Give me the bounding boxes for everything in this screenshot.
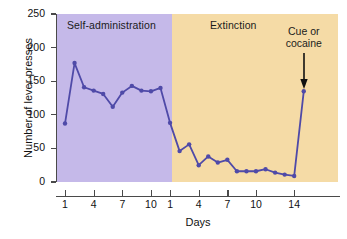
series-polyline [65, 63, 304, 176]
x-axis-tick [294, 190, 295, 196]
y-axis-tick [51, 114, 56, 115]
data-point [91, 88, 95, 92]
data-point [177, 149, 181, 153]
data-point [263, 167, 267, 171]
data-point [197, 163, 201, 167]
x-axis-tick [170, 190, 171, 196]
x-axis-tick-label: 1 [159, 199, 181, 210]
data-point [63, 121, 67, 125]
data-point [302, 89, 306, 93]
data-point [111, 105, 115, 109]
data-point [139, 88, 143, 92]
x-axis-line [56, 196, 340, 197]
data-point [101, 92, 105, 96]
data-series-line [57, 14, 338, 182]
data-point [282, 172, 286, 176]
x-axis-tick-label: 7 [216, 199, 238, 210]
data-point [244, 169, 248, 173]
x-axis-tick-label: 14 [283, 199, 305, 210]
data-point [254, 169, 258, 173]
data-point [216, 160, 220, 164]
y-axis-tick [51, 13, 56, 14]
y-axis-tick [51, 148, 56, 149]
data-point [149, 89, 153, 93]
x-axis-title: Days [56, 216, 340, 228]
data-point [82, 85, 86, 89]
x-axis-tick-label: 4 [83, 199, 105, 210]
y-axis-line [56, 14, 57, 182]
x-axis-tick-label: 7 [111, 199, 133, 210]
x-axis-tick [199, 190, 200, 196]
data-point [292, 174, 296, 178]
data-point [168, 121, 172, 125]
y-axis-title: Number of lever presses [22, 14, 34, 182]
plot-area: Self-administration Extinction Cue or co… [57, 14, 338, 182]
x-axis-tick-label: 1 [54, 199, 76, 210]
x-axis-tick-label: 10 [245, 199, 267, 210]
data-point [130, 84, 134, 88]
x-axis-tick [256, 190, 257, 196]
y-axis-tick [51, 47, 56, 48]
y-axis-tick [51, 181, 56, 182]
data-point [273, 170, 277, 174]
data-point [158, 86, 162, 90]
x-axis-tick [151, 190, 152, 196]
data-point [120, 90, 124, 94]
data-point [206, 154, 210, 158]
data-point [187, 142, 191, 146]
x-axis-tick [227, 190, 228, 196]
data-point [72, 61, 76, 65]
y-axis-tick [51, 81, 56, 82]
x-axis-tick-label: 4 [188, 199, 210, 210]
chart-figure: Self-administration Extinction Cue or co… [0, 0, 347, 239]
x-axis-tick [94, 190, 95, 196]
data-point [235, 169, 239, 173]
data-point [225, 158, 229, 162]
x-axis-tick [65, 190, 66, 196]
x-axis-tick [122, 190, 123, 196]
